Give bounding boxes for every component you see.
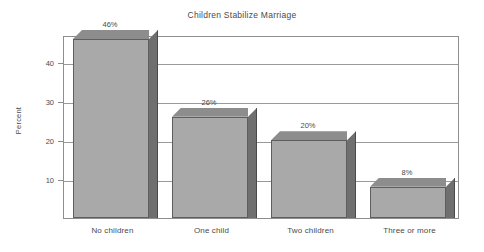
bar-2[interactable] <box>172 108 257 218</box>
bar-value-label-3: 20% <box>300 121 315 130</box>
bar-side-face <box>149 30 158 218</box>
bar-value-label-1: 46% <box>102 20 117 29</box>
bar-top-face <box>73 30 149 39</box>
y-tick-label: 20 <box>28 137 54 146</box>
y-tick-label: 30 <box>28 98 54 107</box>
plot-area <box>63 36 459 219</box>
bar-side-face <box>248 108 257 218</box>
x-tick-label-3: Two children <box>287 226 334 235</box>
y-tick-label: 40 <box>28 59 54 68</box>
y-tick-mark <box>58 63 63 64</box>
x-tick-label-4: Three or more <box>383 226 436 235</box>
x-tick-label-1: No children <box>91 226 133 235</box>
bar-3[interactable] <box>271 131 356 218</box>
y-tick-mark <box>58 180 63 181</box>
bar-4[interactable] <box>370 178 455 218</box>
x-tick-label-2: One child <box>194 226 229 235</box>
bar-side-face <box>347 131 356 218</box>
y-axis-title: Percent <box>14 91 23 151</box>
bar-value-label-4: 8% <box>402 168 413 177</box>
bar-front-face <box>271 140 347 218</box>
bar-1[interactable] <box>73 30 158 218</box>
bar-front-face <box>73 39 149 218</box>
y-tick-mark <box>58 141 63 142</box>
chart-figure: Children Stabilize Marriage Percent 1020… <box>0 0 484 252</box>
bar-top-face <box>172 108 248 117</box>
bar-top-face <box>271 131 347 140</box>
bar-front-face <box>370 187 446 218</box>
bar-top-face <box>370 178 446 187</box>
chart-title: Children Stabilize Marriage <box>0 10 484 20</box>
y-tick-label: 10 <box>28 176 54 185</box>
y-tick-mark <box>58 102 63 103</box>
bar-value-label-2: 26% <box>201 98 216 107</box>
bar-front-face <box>172 117 248 218</box>
bar-side-face <box>446 178 455 218</box>
